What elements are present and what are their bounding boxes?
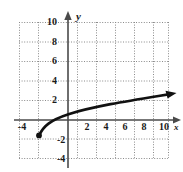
x-axis (14, 117, 181, 124)
y-axis-label: y (76, 11, 81, 22)
y-tick-label-2: 2 (43, 95, 57, 105)
y-tick-label-neg4: -4 (57, 154, 73, 164)
x-axis-label: x (174, 123, 179, 132)
x-tick-label-10: 10 (159, 122, 169, 132)
y-tick-label-4: 4 (43, 76, 57, 86)
curve-start-point-marker (36, 133, 42, 139)
graph-figure: y x 10 8 6 4 2 -2 -4 -4 2 4 6 8 10 (0, 0, 183, 172)
x-tick-label-2: 2 (85, 122, 90, 132)
y-tick-label-neg2: -2 (57, 135, 73, 145)
x-tick-label-8: 8 (142, 122, 147, 132)
y-tick-label-8: 8 (43, 37, 57, 47)
y-tick-label-10: 10 (43, 17, 57, 27)
y-tick-label-6: 6 (43, 56, 57, 66)
x-tick-label-neg4: -4 (18, 122, 26, 132)
coordinate-plane (0, 0, 183, 172)
x-tick-label-6: 6 (123, 122, 128, 132)
grid-vertical (20, 22, 169, 158)
x-tick-label-4: 4 (104, 122, 109, 132)
curve-end-arrow-icon (166, 91, 177, 99)
grid-horizontal (19, 23, 168, 159)
y-axis-arrow-icon (64, 11, 71, 20)
